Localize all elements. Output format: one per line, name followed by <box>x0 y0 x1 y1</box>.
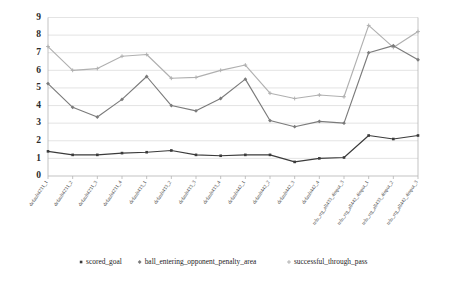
x-tick-label: default433_2 <box>152 179 172 205</box>
y-tick-label: 3 <box>36 117 41 127</box>
chart-canvas: 0123456789 default4231_1default4231_2def… <box>0 0 450 286</box>
data-point-marker <box>194 75 198 79</box>
series-line <box>48 46 418 127</box>
data-point-marker <box>269 154 272 157</box>
data-point-marker <box>392 138 395 141</box>
line-chart: 0123456789 default4231_1default4231_2def… <box>0 0 450 286</box>
x-tick-label: default433_1 <box>127 179 147 205</box>
legend-item-ball_entering_opponent_penalty_area[interactable]: ball_entering_opponent_penalty_area <box>138 257 257 266</box>
y-tick-label: 0 <box>36 170 41 180</box>
data-point-marker <box>145 151 148 154</box>
grid-lines <box>48 18 418 177</box>
y-tick-label: 5 <box>36 82 41 92</box>
data-point-marker <box>170 149 173 152</box>
x-tick-label: default4231_3 <box>77 179 99 207</box>
data-point-marker <box>293 125 297 129</box>
data-point-marker <box>219 154 222 157</box>
y-tick-label: 7 <box>36 47 41 57</box>
legend-item-successful_through_pass[interactable]: successful_through_pass <box>287 257 368 266</box>
plot-frame <box>48 18 418 177</box>
y-tick-label: 9 <box>36 12 41 22</box>
data-point-marker <box>244 154 247 157</box>
data-point-marker <box>96 154 99 157</box>
x-tick-label: default4231_1 <box>27 179 49 207</box>
x-tick-label: default442_4 <box>300 179 320 205</box>
data-point-marker <box>417 134 420 137</box>
data-point-marker <box>367 134 370 137</box>
series-ball_entering_opponent_penalty_area <box>46 44 420 129</box>
data-point-marker <box>343 156 346 159</box>
y-tick-label: 8 <box>36 29 41 39</box>
data-point-marker <box>121 152 124 155</box>
chart-legend: scored_goalball_entering_opponent_penalt… <box>80 257 368 266</box>
series-line <box>48 135 418 161</box>
x-tick-label: default4231_4 <box>101 179 123 207</box>
data-point-marker <box>293 97 297 101</box>
data-point-marker <box>47 150 50 153</box>
y-axis-ticks: 0123456789 <box>36 12 41 181</box>
data-point-marker <box>195 154 198 157</box>
legend-marker-square-icon <box>80 261 83 264</box>
data-point-marker <box>342 95 346 99</box>
data-series-group <box>46 24 420 164</box>
y-tick-label: 2 <box>36 135 41 145</box>
data-point-marker <box>317 93 321 97</box>
data-point-marker <box>293 161 296 164</box>
legend-label: ball_entering_opponent_penalty_area <box>145 257 257 266</box>
data-point-marker <box>194 109 198 113</box>
series-line <box>48 25 418 98</box>
series-scored_goal <box>47 134 420 163</box>
x-tick-label: default433_3 <box>177 179 197 205</box>
x-tick-label: default4231_2 <box>52 179 74 207</box>
data-point-marker <box>317 120 321 124</box>
data-point-marker <box>95 67 99 71</box>
y-tick-label: 1 <box>36 153 41 163</box>
data-point-marker <box>367 51 371 55</box>
legend-item-scored_goal[interactable]: scored_goal <box>80 257 122 266</box>
legend-marker-cross-icon <box>287 260 291 264</box>
legend-label: successful_through_pass <box>294 257 368 266</box>
y-tick-label: 6 <box>36 65 41 75</box>
legend-marker-diamond-icon <box>138 260 142 264</box>
x-tick-label: default442_2 <box>251 179 271 205</box>
legend-label: scored_goal <box>86 257 122 266</box>
x-axis-ticks: default4231_1default4231_2default4231_3d… <box>27 176 419 226</box>
data-point-marker <box>219 68 223 72</box>
data-point-marker <box>120 54 124 58</box>
data-point-marker <box>318 157 321 160</box>
x-tick-label: default433_4 <box>201 179 221 205</box>
x-tick-label: default442_1 <box>226 179 246 205</box>
y-tick-label: 4 <box>36 100 41 110</box>
x-tick-label: default442_3 <box>275 179 295 205</box>
data-point-marker <box>71 154 74 157</box>
data-point-marker <box>342 121 346 125</box>
